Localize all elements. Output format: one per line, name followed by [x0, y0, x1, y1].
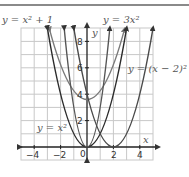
- label-x2: y = x²: [36, 122, 67, 133]
- x-tick-4: 4: [137, 150, 143, 160]
- label-x-minus-2-sq: y = (x − 2)²: [127, 63, 187, 74]
- y-tick-8: 8: [77, 37, 83, 47]
- parabola-chart: y = x² + 1 y = 3x² y = (x − 2)² y = x² x…: [0, 0, 189, 177]
- y-tick-4: 4: [77, 90, 83, 100]
- y-axis-label: y: [91, 27, 98, 38]
- x-tick-2: 2: [111, 150, 117, 160]
- x-tick-neg2: −2: [53, 150, 66, 160]
- x-axis-label: x: [143, 134, 149, 145]
- axes: [20, 25, 158, 160]
- x-tick-neg4: −4: [26, 150, 40, 160]
- label-x2-plus-1: y = x² + 1: [1, 14, 53, 25]
- label-3x2: y = 3x²: [102, 14, 139, 25]
- y-tick-2: 2: [77, 116, 83, 126]
- origin-label: 0: [80, 149, 86, 159]
- y-tick-6: 6: [77, 63, 83, 73]
